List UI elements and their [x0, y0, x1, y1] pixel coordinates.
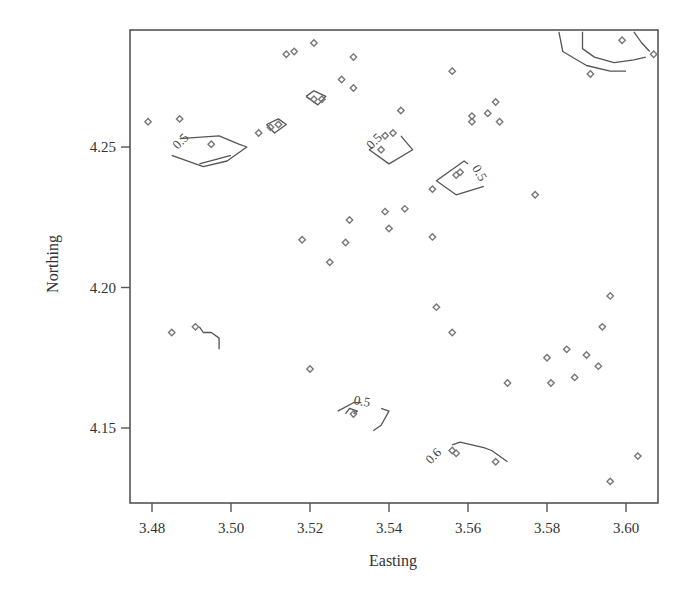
y-tick-label: 4.25: [90, 139, 116, 155]
plot-frame: [130, 30, 658, 503]
plot-area: [130, 30, 658, 503]
y-axis-title: Northing: [44, 235, 62, 293]
x-axis: 3.483.503.523.543.563.583.60: [139, 503, 639, 536]
y-tick-label: 4.20: [90, 280, 116, 296]
x-tick-label: 3.58: [534, 520, 560, 536]
y-axis: 4.154.204.25: [90, 139, 130, 436]
x-tick-label: 3.52: [297, 520, 323, 536]
y-tick-label: 4.15: [90, 420, 116, 436]
contour-scatter-chart: 0.50.50.50.50.6 3.483.503.523.543.563.58…: [0, 0, 693, 604]
x-tick-label: 3.60: [613, 520, 639, 536]
x-tick-label: 3.50: [218, 520, 244, 536]
x-axis-title: Easting: [369, 552, 417, 570]
x-tick-label: 3.56: [455, 520, 482, 536]
x-tick-label: 3.54: [376, 520, 403, 536]
x-tick-label: 3.48: [139, 520, 165, 536]
contour-label: 0.5: [353, 392, 372, 410]
